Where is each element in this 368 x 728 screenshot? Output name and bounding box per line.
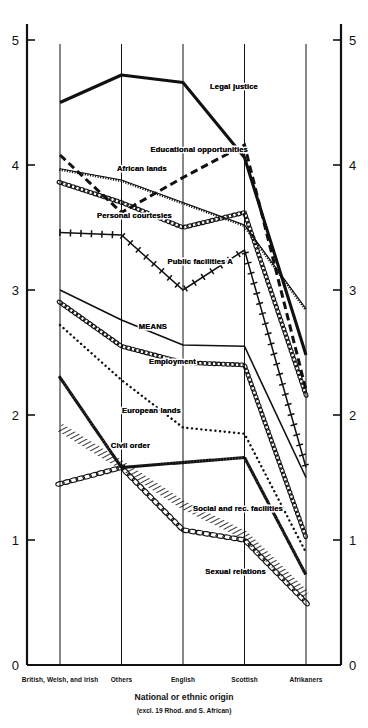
series-marker	[179, 461, 182, 464]
series-marker	[149, 463, 152, 466]
series-marker	[182, 461, 185, 464]
y-tick-label-left: 4	[12, 158, 19, 173]
series-marker	[188, 460, 191, 463]
series-tick	[201, 209, 202, 211]
series-marker	[143, 464, 146, 467]
series-marker	[229, 457, 232, 460]
series-marker	[194, 460, 197, 463]
series-label-social-and-rec-facilities: Social and rec. facilities	[193, 504, 283, 513]
y-tick-label-left: 1	[12, 533, 19, 548]
series-marker	[223, 457, 226, 460]
series-tick	[167, 197, 168, 199]
x-axis-subtitle: (excl. 19 Rhod. and S. African)	[137, 707, 232, 715]
series-marker	[134, 465, 137, 468]
series-label-sexual-relations: Sexual relations	[205, 567, 266, 576]
series-tick	[140, 187, 141, 189]
x-tick-label: British, Welsh, and Irish	[22, 676, 98, 684]
series-marker	[203, 459, 206, 462]
series-tick	[213, 214, 214, 216]
series-label-means: MEANS	[139, 322, 167, 331]
series-tick	[231, 220, 232, 222]
series-marker	[200, 459, 203, 462]
series-tick	[155, 192, 156, 194]
series-marker	[218, 458, 221, 461]
series-marker	[191, 460, 194, 463]
chart-container: 012345 012345 British, Welsh, and IrishO…	[0, 0, 368, 728]
series-tick	[145, 189, 146, 191]
series-marker	[238, 456, 241, 459]
series-marker	[235, 456, 238, 459]
x-axis-title: National or ethnic origin	[135, 692, 234, 702]
series-tick	[235, 222, 236, 224]
series-label-personal-courtesies: Personal courtesies	[97, 211, 172, 220]
series-tick	[211, 213, 212, 215]
series-marker	[232, 457, 235, 460]
series-label-legal-justice: Legal justice	[210, 82, 258, 91]
series-tick	[138, 186, 139, 188]
series-marker	[137, 464, 140, 467]
series-marker	[161, 463, 164, 466]
series-marker	[167, 462, 170, 465]
series-tick	[157, 193, 158, 195]
line-chart: 012345 012345 British, Welsh, and IrishO…	[0, 0, 368, 728]
series-label-african-lands: African lands	[117, 164, 167, 173]
series-label-civil-order: Civil order	[111, 441, 150, 450]
y-tick-label-right: 0	[349, 658, 356, 673]
y-tick-label-right: 4	[349, 158, 356, 173]
x-tick-label: Others	[111, 676, 133, 683]
series-tick	[194, 206, 195, 208]
series-tick	[243, 224, 244, 226]
x-tick-label: Afrikaners	[289, 676, 322, 683]
series-marker	[206, 459, 209, 462]
series-tick	[209, 212, 210, 214]
series-tick	[128, 182, 129, 184]
series-tick	[150, 190, 151, 192]
series-tick	[182, 202, 183, 204]
series-tick	[206, 211, 207, 213]
series-tick	[204, 210, 205, 212]
series-tick	[162, 195, 163, 197]
series-marker	[226, 457, 229, 460]
series-marker	[176, 461, 179, 464]
series-tick	[179, 201, 180, 203]
y-tick-label-right: 3	[349, 283, 356, 298]
y-tick-label-right: 1	[349, 533, 356, 548]
series-tick	[165, 196, 166, 198]
series-tick	[216, 215, 217, 217]
x-tick-label: Scottish	[231, 676, 257, 683]
series-marker	[140, 464, 143, 467]
x-tick-label: English	[171, 676, 195, 684]
series-marker	[197, 460, 200, 463]
series-tick	[126, 181, 127, 183]
y-tick-label-left: 2	[12, 408, 19, 423]
series-tick	[191, 206, 192, 208]
series-tick	[170, 198, 171, 200]
y-tick-label-left: 0	[12, 658, 19, 673]
series-marker	[173, 462, 176, 465]
series-tick	[133, 184, 134, 186]
series-tick	[233, 221, 234, 223]
y-tick-label-right: 2	[349, 408, 356, 423]
series-label-employment: Employment	[149, 357, 196, 366]
series-tick	[189, 205, 190, 207]
y-tick-label-left: 5	[12, 33, 19, 48]
series-marker	[146, 464, 149, 467]
series-tick	[228, 219, 229, 221]
series-marker	[170, 462, 173, 465]
series-marker	[220, 458, 223, 461]
series-marker	[158, 463, 161, 466]
series-marker	[212, 458, 215, 461]
series-tick	[184, 203, 185, 205]
series-tick	[135, 185, 136, 187]
series-tick	[130, 183, 131, 185]
series-tick	[240, 223, 241, 225]
series-tick	[148, 189, 149, 191]
y-tick-label-right: 5	[349, 33, 356, 48]
series-marker	[185, 461, 188, 464]
series-marker	[209, 459, 212, 462]
series-label-european-lands: European lands	[122, 406, 181, 415]
series-tick	[238, 223, 239, 225]
series-label-educational-opportunities: Educational opportunities	[151, 145, 248, 154]
series-marker	[155, 463, 158, 466]
series-tick	[172, 198, 173, 200]
